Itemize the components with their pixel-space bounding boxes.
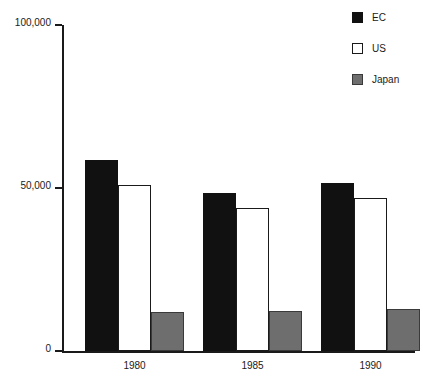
- bar-japan-1985: [269, 311, 302, 351]
- x-axis-category-labels: 198019851990: [62, 360, 415, 376]
- y-axis-tick: 100,000: [55, 24, 62, 26]
- x-axis-label-1980: 1980: [123, 360, 145, 371]
- bars-layer: [62, 25, 415, 351]
- bar-us-1990: [354, 198, 387, 351]
- plot-area: 050,000100,000: [62, 25, 415, 351]
- y-axis-tick-label: 50,000: [20, 180, 51, 192]
- x-axis-label-1990: 1990: [359, 360, 381, 371]
- bar-ec-1980: [85, 160, 118, 351]
- bar-ec-1985: [203, 193, 236, 351]
- y-axis-tick-label: 0: [45, 343, 51, 355]
- x-axis-label-1985: 1985: [241, 360, 263, 371]
- bar-chart: EC US Japan 050,000100,000 198019851990: [0, 0, 423, 386]
- y-axis-tick: 0: [55, 350, 62, 352]
- bar-us-1980: [118, 185, 151, 351]
- y-axis-tick: 50,000: [55, 187, 62, 189]
- bar-japan-1980: [151, 312, 184, 351]
- y-axis-tick-label: 100,000: [15, 17, 51, 29]
- bar-us-1985: [236, 208, 269, 351]
- legend-label-ec: EC: [372, 12, 386, 23]
- filled-black-square-icon: [352, 12, 363, 23]
- legend-item-ec: EC: [352, 12, 422, 23]
- x-axis-line: [62, 351, 415, 353]
- bar-ec-1990: [321, 183, 354, 351]
- bar-japan-1990: [387, 309, 420, 351]
